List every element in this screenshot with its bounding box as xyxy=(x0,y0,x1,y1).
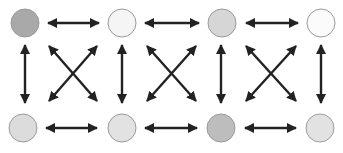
node-b4 xyxy=(306,114,334,142)
edges-group xyxy=(25,23,321,128)
node-t1 xyxy=(11,9,39,37)
node-b3 xyxy=(207,114,235,142)
node-b1 xyxy=(9,114,37,142)
node-t2 xyxy=(108,9,136,37)
node-b2 xyxy=(108,114,136,142)
node-t3 xyxy=(208,9,236,37)
node-t4 xyxy=(307,9,335,37)
network-diagram xyxy=(0,0,343,153)
